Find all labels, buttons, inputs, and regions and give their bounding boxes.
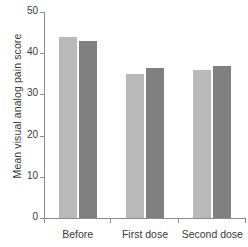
bar bbox=[59, 37, 77, 218]
x-tick-mark-origin bbox=[44, 219, 45, 223]
y-tick-mark bbox=[40, 177, 44, 178]
x-category-label: Second dose bbox=[179, 228, 246, 240]
x-axis-line bbox=[44, 218, 246, 219]
bar bbox=[213, 66, 231, 218]
y-tick-label: 10 bbox=[27, 170, 38, 181]
y-tick-label: 30 bbox=[27, 87, 38, 98]
bar bbox=[146, 68, 164, 218]
bar-chart-figure: Mean visual analog pain score 0102030405… bbox=[0, 0, 248, 247]
bar bbox=[193, 70, 211, 218]
plot-area: 01020304050 BeforeFirst doseSecond dose bbox=[44, 12, 246, 219]
y-axis-title: Mean visual analog pain score bbox=[10, 0, 24, 222]
bar bbox=[126, 74, 144, 218]
y-tick-mark bbox=[40, 12, 44, 13]
bar bbox=[79, 41, 97, 218]
x-tick-mark bbox=[110, 219, 111, 223]
y-tick-mark bbox=[40, 53, 44, 54]
y-tick-label: 0 bbox=[32, 211, 38, 222]
x-tick-mark bbox=[178, 219, 179, 223]
y-tick-label: 50 bbox=[27, 5, 38, 16]
x-category-label: Before bbox=[44, 228, 111, 240]
y-tick-mark bbox=[40, 94, 44, 95]
x-category-label: First dose bbox=[111, 228, 178, 240]
y-axis-line bbox=[44, 12, 45, 219]
y-tick-label: 20 bbox=[27, 129, 38, 140]
y-tick-mark bbox=[40, 136, 44, 137]
y-tick-label: 40 bbox=[27, 46, 38, 57]
x-tick-mark bbox=[245, 219, 246, 223]
